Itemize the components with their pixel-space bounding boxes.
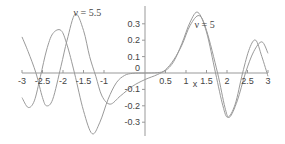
y-tick-label: -0.3 <box>124 117 140 127</box>
x-tick-label: -2.5 <box>35 76 51 86</box>
x-tick-label: -1.5 <box>76 76 92 86</box>
curve-annotation: ν = 5 <box>195 19 215 30</box>
y-tick-label: -0.2 <box>124 101 140 111</box>
y-tick-label: 0.3 <box>127 19 140 29</box>
labels: -3-2.5-2-1.5-10.511.522.530.30.20.10-0.1… <box>18 7 271 127</box>
x-tick-label: 1.5 <box>200 76 213 86</box>
x-axis-label: x <box>193 79 198 89</box>
x-tick-label: 2 <box>224 76 229 86</box>
x-tick-label: 0.5 <box>159 76 172 86</box>
x-tick-label: 1 <box>183 76 188 86</box>
y-tick-label: 0.2 <box>127 35 140 45</box>
x-tick-label: 2.5 <box>241 76 254 86</box>
curve-annotation: ν = 5.5 <box>74 7 102 18</box>
chart: -3-2.5-2-1.5-10.511.522.530.30.20.10-0.1… <box>0 0 285 144</box>
y-tick-label: 0.1 <box>127 52 140 62</box>
axes <box>22 6 268 136</box>
y-tick-label: -0.1 <box>124 84 140 94</box>
x-tick-label: -2 <box>59 76 67 86</box>
x-tick-label: -1 <box>100 76 108 86</box>
y-tick-label: 0 <box>135 63 140 73</box>
x-tick-label: 3 <box>265 76 270 86</box>
x-tick-label: -3 <box>18 76 26 86</box>
